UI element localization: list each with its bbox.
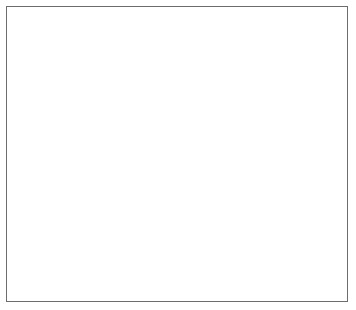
chart-container: 40455055606570758085 1995200020052010 Na…: [0, 0, 356, 310]
chart-outer-frame: [6, 6, 348, 302]
